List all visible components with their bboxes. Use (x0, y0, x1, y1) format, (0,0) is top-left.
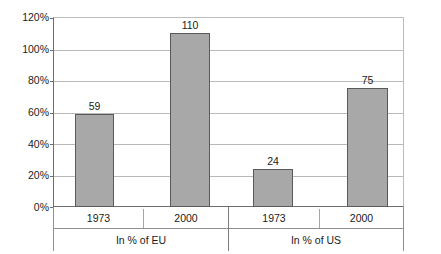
bar-value-us-2000: 75 (337, 75, 398, 86)
y-tick-label-20: 20% (3, 170, 49, 181)
y-axis: 120% 100% 80% 60% 40% 20% 0% (0, 0, 49, 254)
x-axis-year-row: 1973 2000 1973 2000 (53, 207, 404, 229)
y-tick-label-0: 0% (3, 202, 49, 213)
bar-chart: 120% 100% 80% 60% 40% 20% 0% 59 110 24 7… (0, 0, 441, 254)
y-tick-label-60: 60% (3, 107, 49, 118)
bars-layer: 59 110 24 75 (53, 17, 404, 207)
x-label-us-1973: 1973 (229, 207, 319, 229)
y-tick-label-120: 120% (3, 12, 49, 23)
x-label-eu-2000: 2000 (144, 207, 228, 229)
bar-eu-1973[interactable] (75, 114, 114, 207)
x-group-label-us: In % of US (229, 229, 403, 251)
bar-value-us-1973: 24 (243, 156, 303, 167)
bar-us-2000[interactable] (347, 88, 388, 207)
x-label-eu-1973: 1973 (54, 207, 143, 229)
bar-eu-2000[interactable] (170, 33, 210, 207)
x-axis: 1973 2000 1973 2000 In % of EU In % of U… (53, 207, 404, 251)
y-tick-label-80: 80% (3, 75, 49, 86)
y-tick-label-100: 100% (3, 43, 49, 54)
bar-value-eu-1973: 59 (65, 101, 124, 112)
bar-value-eu-2000: 110 (160, 20, 220, 31)
x-axis-group-row: In % of EU In % of US (53, 229, 404, 251)
bar-us-1973[interactable] (253, 169, 293, 207)
y-tick-label-40: 40% (3, 138, 49, 149)
x-group-label-eu: In % of EU (54, 229, 228, 251)
x-label-us-2000: 2000 (320, 207, 403, 229)
